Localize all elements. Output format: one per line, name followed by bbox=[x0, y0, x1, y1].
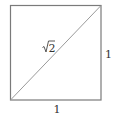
square-diagram: 2 1 1 bbox=[0, 0, 114, 114]
diagonal-label-text: 2 bbox=[49, 42, 56, 55]
bottom-side-label: 1 bbox=[54, 103, 61, 114]
right-side-label: 1 bbox=[105, 48, 112, 61]
diagonal-line bbox=[11, 6, 102, 101]
diagonal-label: 2 bbox=[43, 41, 56, 55]
